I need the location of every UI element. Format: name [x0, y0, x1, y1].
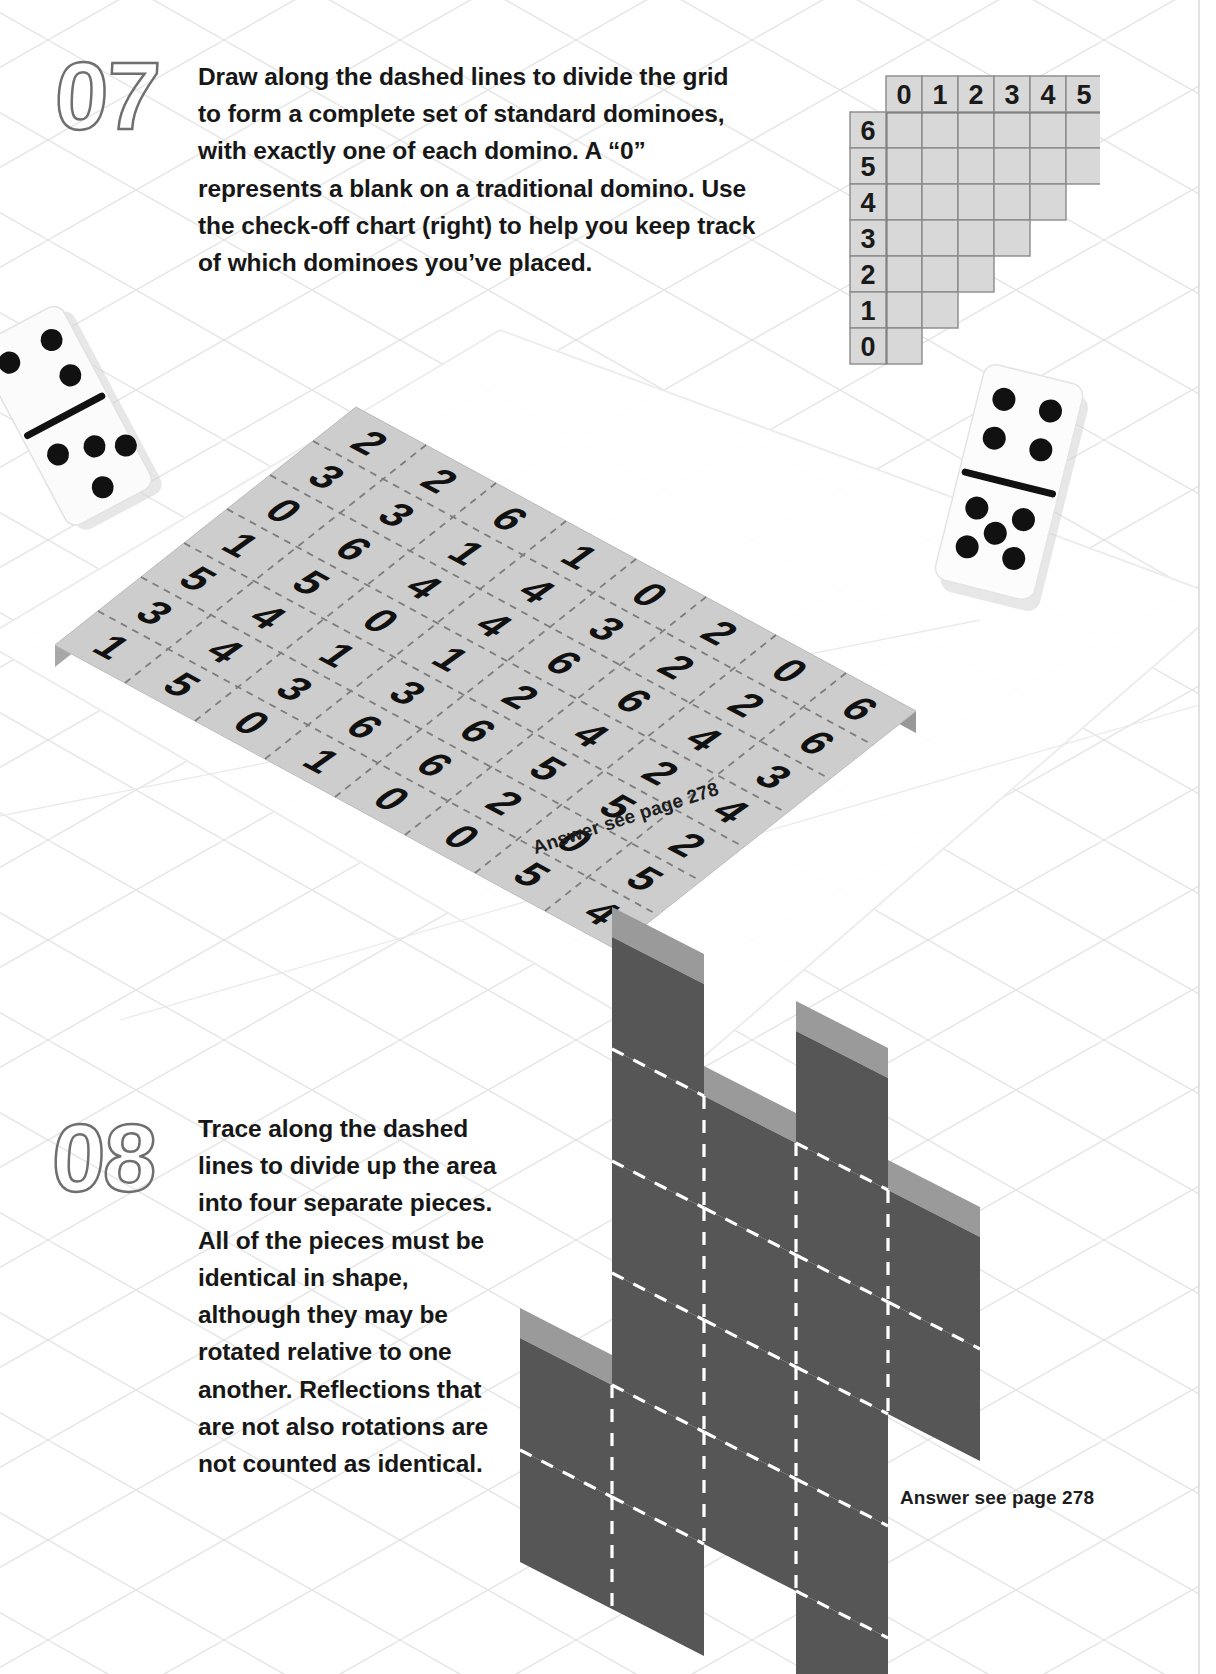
check-chart-cell[interactable]	[922, 112, 958, 148]
check-chart-cell[interactable]	[994, 112, 1030, 148]
check-chart-col-header-label: 2	[968, 80, 983, 110]
check-chart-cell[interactable]	[994, 184, 1030, 220]
puzzle-number-07: 07	[52, 48, 160, 144]
check-chart-cell[interactable]	[886, 184, 922, 220]
check-chart-col-header-label: 0	[896, 80, 911, 110]
check-chart-cell[interactable]	[886, 292, 922, 328]
isometric-polyomino-shape[interactable]	[470, 820, 1216, 1580]
check-chart-row-header-label: 4	[860, 188, 875, 218]
check-chart-cell[interactable]	[994, 220, 1030, 256]
check-chart-cell[interactable]	[922, 184, 958, 220]
check-chart-cell[interactable]	[886, 220, 922, 256]
check-chart-cell[interactable]	[1066, 112, 1100, 148]
check-chart-col-header-label: 4	[1040, 80, 1055, 110]
check-chart-cell[interactable]	[958, 256, 994, 292]
puzzle-07-instruction: Draw along the dashed lines to divide th…	[198, 58, 758, 281]
check-chart-cell[interactable]	[922, 256, 958, 292]
answer-note-08: Answer see page 278	[900, 1487, 1094, 1509]
check-chart-col-header-label: 3	[1004, 80, 1019, 110]
check-chart-cell[interactable]	[958, 112, 994, 148]
check-chart-row-header-label: 6	[860, 116, 875, 146]
check-chart-row-header-label: 2	[860, 260, 875, 290]
check-chart-col-header-label: 1	[932, 80, 947, 110]
puzzle-number-08: 08	[49, 1110, 157, 1206]
check-chart-cell[interactable]	[1030, 112, 1066, 148]
check-chart-cell[interactable]	[958, 220, 994, 256]
check-chart-cell[interactable]	[886, 256, 922, 292]
check-chart-row-header-label: 1	[860, 296, 875, 326]
check-chart-cell[interactable]	[1030, 148, 1066, 184]
check-chart-cell[interactable]	[886, 112, 922, 148]
check-chart-col-header-label: 5	[1076, 80, 1091, 110]
decor-domino-right	[920, 362, 1120, 626]
decor-domino-left	[0, 284, 186, 538]
check-chart-cell[interactable]	[1066, 148, 1100, 184]
check-chart-cell[interactable]	[922, 220, 958, 256]
check-off-chart[interactable]: 0123456 6543210	[800, 66, 1100, 376]
check-chart-cell[interactable]	[958, 184, 994, 220]
check-chart-cell[interactable]	[958, 148, 994, 184]
check-chart-row-header-label: 5	[860, 152, 875, 182]
check-chart-cell[interactable]	[886, 328, 922, 364]
check-chart-cell[interactable]	[922, 148, 958, 184]
check-chart-row-header-label: 3	[860, 224, 875, 254]
puzzle-08-instruction: Trace along the dashed lines to divide u…	[198, 1110, 498, 1482]
check-chart-cell[interactable]	[994, 148, 1030, 184]
check-chart-cell[interactable]	[1030, 184, 1066, 220]
check-chart-cell[interactable]	[922, 292, 958, 328]
check-chart-cell[interactable]	[886, 148, 922, 184]
